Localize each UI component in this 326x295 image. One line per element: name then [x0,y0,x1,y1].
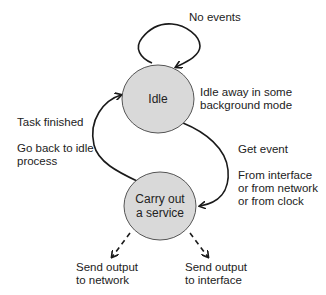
send-to-network-label: Send output to network [76,261,138,287]
idle-node-label: Idle [138,92,178,106]
self-loop-arrow [138,24,200,67]
go-back-line1: Go back to idle [17,142,94,155]
event-sources-label: From interface or from network or from c… [238,169,318,208]
task-finished-label: Task finished [17,116,83,129]
out-if-line2: to interface [185,274,247,287]
service-node-label: Carry out a service [125,192,195,220]
idle-description: Idle away in some background mode [200,86,292,112]
go-back-line2: process [17,155,94,168]
idle-desc-line2: background mode [200,99,292,112]
out-if-line1: Send output [185,261,247,274]
go-back-label: Go back to idle process [17,142,94,168]
send-to-interface-label: Send output to interface [185,261,247,287]
from-line1: From interface [238,169,318,182]
idle-desc-line1: Idle away in some [200,86,292,99]
no-events-label: No events [189,11,241,24]
send-to-interface-arrow [190,233,208,257]
get-event-label: Get event [238,143,288,156]
out-net-line2: to network [76,274,138,287]
from-line2: or from network [238,182,318,195]
send-to-network-arrow [112,233,130,257]
service-label-line2: a service [125,206,195,220]
from-line3: or from clock [238,195,318,208]
out-net-line1: Send output [76,261,138,274]
service-label-line1: Carry out [125,192,195,206]
